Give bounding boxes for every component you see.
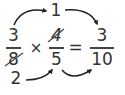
arrow-5-to-10-icon (62, 70, 91, 76)
fraction-multiplication-diagram: 3 8 × 4 5 = 3 10 1 2 (0, 0, 125, 95)
arrows-overlay (0, 0, 125, 95)
arrow-2-to-5-icon (26, 70, 52, 80)
cancel-line-4 (48, 29, 64, 42)
arrow-3-to-1-icon (14, 10, 46, 25)
cancel-line-8 (5, 53, 23, 66)
arrow-1-to-3-icon (65, 10, 97, 24)
